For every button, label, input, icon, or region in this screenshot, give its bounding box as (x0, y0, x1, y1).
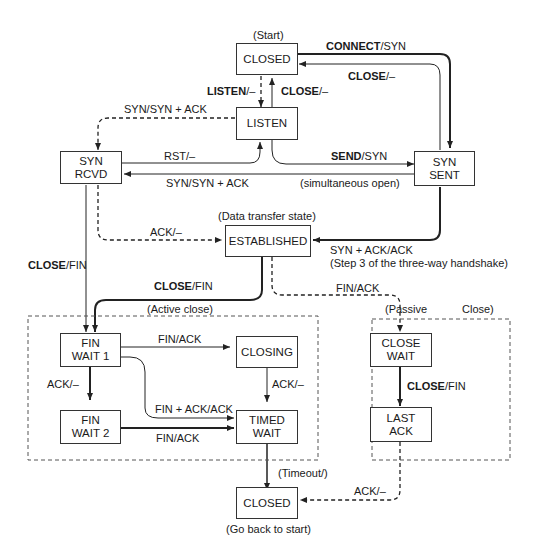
state-close-wait: CLOSEWAIT (370, 333, 432, 367)
state-fin-wait-2: FINWAIT 2 (60, 410, 121, 444)
annotation-passive: (Passive (385, 303, 427, 316)
label-close-top: CLOSE/– (348, 70, 395, 83)
state-timed-wait: TIMEDWAIT (236, 410, 298, 444)
annotation-close: Close) (462, 303, 494, 316)
state-label: ACK (389, 425, 413, 438)
annotation-step3: (Step 3 of the three-way handshake) (330, 257, 508, 270)
label-finack-ack: FIN + ACK/ACK (155, 403, 233, 416)
label-rst: RST/– (164, 150, 195, 163)
state-label: SENT (429, 169, 460, 182)
label-fin-ack-closing: FIN/ACK (158, 333, 201, 346)
state-closed-end: CLOSED (236, 487, 298, 519)
annotation-active-close: (Active close) (147, 303, 213, 316)
annotation-data-transfer: (Data transfer state) (218, 210, 316, 223)
state-label: CLOSE (382, 337, 421, 350)
transition-arrows (0, 0, 535, 556)
state-label: CLOSING (241, 346, 293, 359)
state-fin-wait-1: FINWAIT 1 (60, 333, 121, 367)
state-label: TIMED (249, 414, 285, 427)
state-label: SYN (79, 155, 103, 168)
state-last-ack: LASTACK (370, 407, 432, 442)
label-close-listen: CLOSE/– (281, 85, 328, 98)
label-syn-synack-top: SYN/SYN + ACK (124, 103, 207, 116)
state-label: WAIT (387, 350, 415, 363)
state-closing: CLOSING (236, 336, 298, 368)
state-label: RCVD (75, 168, 108, 181)
state-label: LAST (387, 412, 416, 425)
label-ack-lastack: ACK/– (354, 485, 386, 498)
label-ack-established: ACK/– (150, 226, 182, 239)
state-label: SYN (433, 156, 457, 169)
label-ack-finwait2: ACK/– (47, 378, 79, 391)
state-label: CLOSED (243, 53, 290, 66)
label-close-fin-left: CLOSE/FIN (28, 259, 87, 272)
annotation-timeout: (Timeout/) (278, 467, 328, 480)
state-closed-start: CLOSED (236, 43, 298, 75)
state-syn-rcvd: SYNRCVD (60, 151, 122, 184)
label-listen: LISTEN/– (207, 85, 255, 98)
state-label: WAIT 2 (72, 427, 110, 440)
label-close-fin-closewait: CLOSE/FIN (407, 380, 466, 393)
state-syn-sent: SYNSENT (414, 151, 475, 186)
state-label: CLOSED (243, 497, 290, 510)
state-label: ESTABLISHED (229, 235, 307, 248)
state-label: WAIT 1 (72, 350, 110, 363)
label-fin-ack-finwait2: FIN/ACK (156, 432, 199, 445)
state-label: WAIT (253, 427, 281, 440)
state-established: ESTABLISHED (225, 225, 311, 257)
annotation-start: (Start) (253, 29, 284, 42)
label-close-fin-established: CLOSE/FIN (154, 280, 213, 293)
state-label: FIN (81, 414, 100, 427)
label-send-syn: SEND/SYN (331, 150, 387, 163)
label-fin-ack-passive: FIN/ACK (336, 282, 379, 295)
state-label: FIN (81, 337, 100, 350)
label-ack-closing: ACK/– (272, 378, 304, 391)
state-label: LISTEN (247, 117, 287, 130)
annotation-simultaneous-open: (simultaneous open) (300, 177, 400, 190)
label-connect-syn: CONNECT/SYN (326, 40, 406, 53)
label-synack-ack: SYN + ACK/ACK (330, 244, 413, 257)
state-listen: LISTEN (236, 107, 298, 140)
annotation-go-back: (Go back to start) (226, 523, 311, 536)
label-syn-synack-bottom: SYN/SYN + ACK (166, 177, 249, 190)
